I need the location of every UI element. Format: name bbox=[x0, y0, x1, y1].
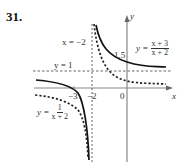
tick-label-neg2: −2 bbox=[87, 92, 97, 101]
x-axis-arrow-icon bbox=[166, 86, 173, 91]
curve-dashed-denominator: x + 2 bbox=[52, 113, 69, 121]
curve-solid-prefix: y = bbox=[136, 43, 148, 53]
y-axis-label: y bbox=[130, 12, 134, 21]
y-axis-arrow-icon bbox=[125, 15, 130, 22]
origin-label: 0 bbox=[120, 92, 125, 101]
curve-solid-denominator: x + 2 bbox=[152, 49, 169, 57]
curve-dashed-label: y = 1 x + 2 bbox=[37, 104, 68, 122]
y-intercept-label: 1.5 bbox=[114, 51, 125, 60]
vertical-asymptote-label: x = −2 bbox=[62, 38, 86, 47]
curve-solid-label: y = x + 3 x + 2 bbox=[136, 40, 169, 58]
curve-solid-fraction: x + 3 x + 2 bbox=[151, 40, 170, 58]
curve-dashed-prefix: y = bbox=[37, 107, 49, 117]
curve-dashed-fraction: 1 x + 2 bbox=[52, 104, 69, 122]
x-axis-label: x bbox=[172, 92, 176, 101]
graph-canvas bbox=[0, 0, 181, 165]
horizontal-asymptote-label: y = 1 bbox=[54, 61, 73, 70]
tick-label-neg3: −3 bbox=[68, 92, 78, 101]
